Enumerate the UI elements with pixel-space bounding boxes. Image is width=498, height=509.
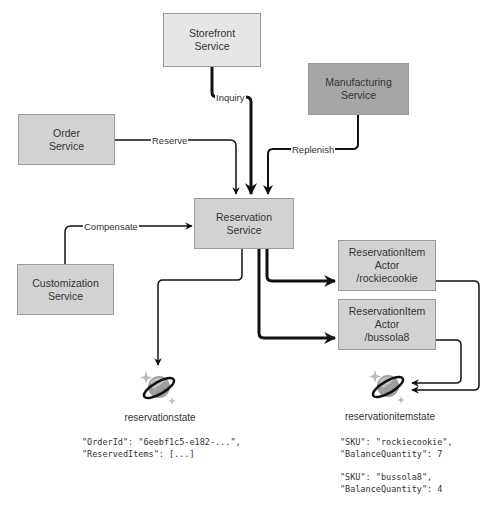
manufacturing-line1: Manufacturing xyxy=(325,76,392,89)
reservationitemstate-label: reservationitemstate xyxy=(330,411,450,422)
actor-bussola8-node[interactable]: ReservationItem Actor /bussola8 xyxy=(338,299,436,350)
compensate-label: Compensate xyxy=(83,221,139,232)
actor-bussola8-line2: Actor xyxy=(375,318,400,331)
bussola8-json: "SKU": "bussola8", "BalanceQuantity": 4 xyxy=(340,471,442,495)
actor-rockiecookie-line1: ReservationItem xyxy=(349,246,425,259)
reservationstate-json: "OrderId": "6eebf1c5-e182-...", "Reserve… xyxy=(82,436,241,460)
reservationstate-label: reservationstate xyxy=(100,412,220,423)
actor-rockiecookie-node[interactable]: ReservationItem Actor /rockiecookie xyxy=(338,240,436,291)
inquiry-connector xyxy=(212,66,251,194)
manufacturing-line2: Service xyxy=(341,89,376,102)
customization-line2: Service xyxy=(48,290,83,303)
order-line1: Order xyxy=(53,127,80,140)
reservation-line2: Service xyxy=(226,224,261,237)
actor-rockiecookie-line3: /rockiecookie xyxy=(356,272,417,285)
reservation-line1: Reservation xyxy=(216,211,272,224)
reservation-service-node[interactable]: Reservation Service xyxy=(194,198,294,249)
actor-rockiecookie-line2: Actor xyxy=(375,259,400,272)
rockiecookie-json: "SKU": "rockiecookie", "BalanceQuantity"… xyxy=(340,436,453,460)
reservationstate-connector xyxy=(158,249,242,365)
customization-service-node[interactable]: Customization Service xyxy=(17,264,114,315)
manufacturing-service-node[interactable]: Manufacturing Service xyxy=(308,63,409,115)
actor-bussola8-line1: ReservationItem xyxy=(349,305,425,318)
storefront-line1: Storefront xyxy=(189,27,235,40)
actor-bussola8-connector xyxy=(259,249,335,338)
reserve-label: Reserve xyxy=(151,135,188,146)
storefront-service-node[interactable]: Storefront Service xyxy=(163,13,261,67)
replenish-label: Replenish xyxy=(291,144,335,155)
inquiry-label: Inquiry xyxy=(215,92,246,103)
reserve-connector xyxy=(115,140,236,194)
storefront-line2: Service xyxy=(194,40,229,53)
cosmos-db-icon xyxy=(365,366,411,406)
cosmos-db-icon xyxy=(136,367,182,407)
actor-bussola8-line3: /bussola8 xyxy=(365,331,410,344)
actor-rockiecookie-connector xyxy=(267,249,335,281)
customization-line1: Customization xyxy=(32,277,99,290)
order-service-node[interactable]: Order Service xyxy=(18,114,115,165)
order-line2: Service xyxy=(49,140,84,153)
